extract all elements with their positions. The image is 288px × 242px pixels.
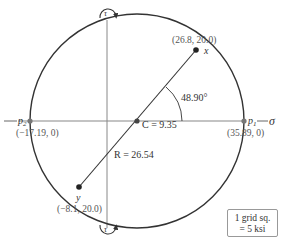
mohr-circle-diagram: τ τ σ p1 (35.89, 0) p2 (−17.19, 0) (26.8… — [0, 0, 288, 242]
y-coords: (−8.1, 20.0) — [57, 204, 102, 215]
legend-line-2: = 5 ksi — [228, 224, 277, 235]
angle-label: 48.90° — [181, 92, 208, 103]
radius-label: R = 26.54 — [114, 149, 154, 160]
center-label: C = 9.35 — [142, 119, 177, 130]
point-y — [76, 184, 82, 190]
tau-top-label: τ — [104, 9, 108, 18]
scale-legend: 1 grid sq. = 5 ksi — [227, 209, 278, 237]
legend-line-1: 1 grid sq. — [228, 213, 277, 224]
point-p1 — [241, 118, 246, 123]
x-coords: (26.8, 20.0) — [172, 35, 216, 46]
point-p2 — [27, 118, 32, 123]
sigma-label: σ — [269, 114, 276, 128]
p1-label: p1 — [247, 115, 257, 128]
p1-coords: (35.89, 0) — [227, 128, 264, 139]
x-label: x — [203, 45, 209, 56]
point-center — [134, 118, 139, 123]
y-label: y — [75, 192, 81, 203]
p2-label: p2 — [17, 115, 27, 128]
p2-coords: (−17.19, 0) — [16, 128, 59, 139]
angle-arc — [166, 87, 182, 121]
tau-bottom-rotation-arrow-icon — [100, 225, 116, 234]
point-x — [193, 47, 199, 53]
